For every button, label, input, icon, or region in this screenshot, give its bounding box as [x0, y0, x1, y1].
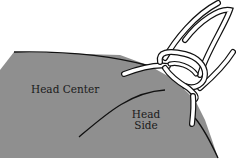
head-center-label: Head Center [31, 84, 99, 95]
head-side-label-line2: Side [131, 120, 161, 131]
head-side-label: Head Side [131, 109, 161, 131]
knot-diagram: Head Center Head Side [0, 0, 236, 165]
